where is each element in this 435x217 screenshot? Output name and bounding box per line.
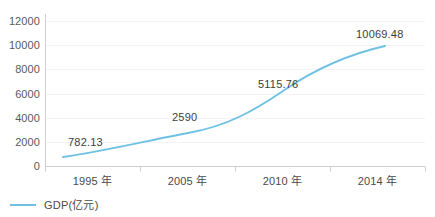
data-label-1995: 782.13 [68, 136, 103, 148]
chart-legend[interactable]: GDP(亿元) [10, 198, 99, 212]
x-axis-tick-label-2010: 2010 年 [235, 175, 330, 187]
x-axis-ticks [46, 167, 426, 172]
legend-line-icon [10, 204, 36, 206]
data-label-2010: 5115.76 [258, 78, 298, 90]
legend-label-gdp: GDP(亿元) [44, 199, 99, 211]
x-axis-tick-label-1995: 1995 年 [45, 175, 140, 187]
data-label-2014: 10069.48 [356, 28, 403, 40]
gdp-series-line [63, 46, 385, 157]
x-axis-tick-label-2014: 2014 年 [330, 175, 425, 187]
x-axis-tick-label-2005: 2005 年 [140, 175, 235, 187]
data-label-2005: 2590 [172, 111, 197, 123]
gdp-line-chart: 12000 10000 8000 6000 4000 2000 0 [0, 0, 435, 217]
